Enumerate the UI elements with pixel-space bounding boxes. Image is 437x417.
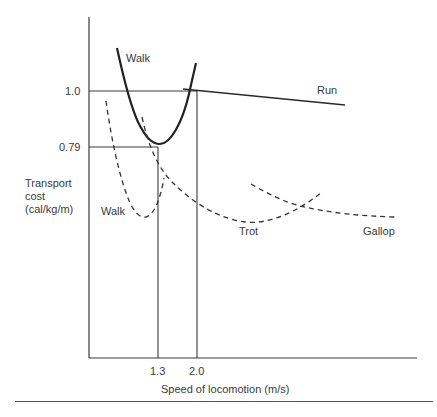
series-gallop xyxy=(251,184,395,217)
y-tick-1.0: 1.0 xyxy=(65,85,80,98)
label-walk-quadruped: Walk xyxy=(101,205,125,218)
y-tick-0.79: 0.79 xyxy=(59,141,80,154)
series-walk-quadruped xyxy=(106,101,164,217)
series-trot xyxy=(142,117,322,222)
y-axis-label-line-3: (cal/kg/m) xyxy=(25,203,73,216)
label-gallop: Gallop xyxy=(363,225,395,238)
bottom-divider xyxy=(15,401,433,402)
x-tick-1.3: 1.3 xyxy=(150,365,165,378)
y-axis-label-line-2: cost xyxy=(25,190,73,203)
x-axis-label: Speed of locomotion (m/s) xyxy=(161,383,289,396)
label-run: Run xyxy=(317,84,337,97)
y-axis-label: Transport cost (cal/kg/m) xyxy=(25,177,73,216)
y-axis-label-line-1: Transport xyxy=(25,177,73,190)
label-walk-human: Walk xyxy=(126,52,150,65)
x-tick-2.0: 2.0 xyxy=(189,365,204,378)
label-trot: Trot xyxy=(239,225,258,238)
